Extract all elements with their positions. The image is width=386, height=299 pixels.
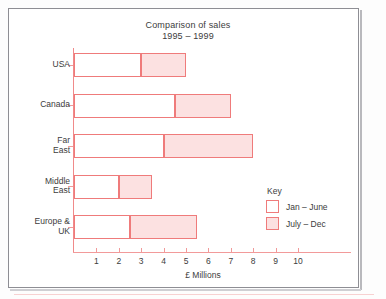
x-axis-title: £ Millions xyxy=(138,270,268,280)
scan-bleed-line xyxy=(14,294,374,295)
bar-segment-july-dec[interactable] xyxy=(175,94,231,118)
bar-segment-jan-june[interactable] xyxy=(74,53,141,77)
y-axis-category-label: USA xyxy=(0,60,70,70)
bar-canada[interactable] xyxy=(74,94,231,118)
white-swatch-icon xyxy=(266,200,279,213)
bar-segment-jan-june[interactable] xyxy=(74,134,164,158)
y-axis-category-label: Far East xyxy=(0,136,70,155)
bar-far-east[interactable] xyxy=(74,134,253,158)
x-axis-tick xyxy=(298,248,299,252)
stacked-bar-chart: Comparison of sales 1995 – 1999 USACanad… xyxy=(8,8,359,288)
bar-segment-jan-june[interactable] xyxy=(74,94,175,118)
bar-segment-july-dec[interactable] xyxy=(164,134,254,158)
legend-title: Key xyxy=(267,186,358,196)
figure-frame-shadow-bottom xyxy=(10,289,361,291)
x-axis-line xyxy=(73,252,351,253)
x-axis-tick xyxy=(141,248,142,252)
bar-segment-july-dec[interactable] xyxy=(141,53,186,77)
figure-frame-shadow-right xyxy=(360,10,362,290)
x-axis-tick xyxy=(119,248,120,252)
y-axis-category-label: Middle East xyxy=(0,177,70,196)
x-axis-tick-label: 6 xyxy=(198,256,218,266)
bar-segment-july-dec[interactable] xyxy=(130,215,197,239)
x-axis-tick-label: 1 xyxy=(86,256,106,266)
legend-item-jan-june[interactable]: Jan – June xyxy=(266,199,358,214)
legend-item-label: July – Dec xyxy=(286,219,326,229)
x-axis-tick-label: 10 xyxy=(288,256,308,266)
bar-segment-july-dec[interactable] xyxy=(119,175,153,199)
x-axis-tick-label: 3 xyxy=(131,256,151,266)
chart-title: Comparison of sales 1995 – 1999 xyxy=(68,20,308,42)
pink-swatch-icon xyxy=(266,217,279,230)
y-axis-category-label: Canada xyxy=(0,100,70,110)
x-axis-tick-label: 7 xyxy=(221,256,241,266)
chart-legend: Key Jan – June July – Dec xyxy=(266,186,358,233)
x-axis-tick-label: 9 xyxy=(266,256,286,266)
x-axis-tick xyxy=(276,248,277,252)
x-axis-tick-label: 4 xyxy=(154,256,174,266)
legend-item-label: Jan – June xyxy=(286,202,328,212)
bar-europe---uk[interactable] xyxy=(74,215,197,239)
x-axis-tick xyxy=(208,248,209,252)
x-axis-tick xyxy=(164,248,165,252)
x-axis-tick xyxy=(96,248,97,252)
x-axis-tick xyxy=(253,248,254,252)
bar-usa[interactable] xyxy=(74,53,186,77)
x-axis-tick-label: 5 xyxy=(176,256,196,266)
scanned-page: Comparison of sales 1995 – 1999 USACanad… xyxy=(0,0,386,299)
bar-segment-jan-june[interactable] xyxy=(74,215,130,239)
x-axis-tick xyxy=(231,248,232,252)
legend-item-july-dec[interactable]: July – Dec xyxy=(266,216,358,231)
y-axis-category-label: Europe & UK xyxy=(0,217,70,236)
x-axis-tick xyxy=(186,248,187,252)
x-axis-tick-label: 8 xyxy=(243,256,263,266)
x-axis-tick-label: 2 xyxy=(109,256,129,266)
bar-segment-jan-june[interactable] xyxy=(74,175,119,199)
bar-middle-east[interactable] xyxy=(74,175,152,199)
